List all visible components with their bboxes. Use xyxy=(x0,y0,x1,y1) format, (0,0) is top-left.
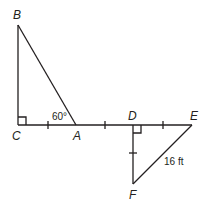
point-label-e: E xyxy=(190,110,198,122)
point-label-a: A xyxy=(73,130,81,142)
right-angle-c-marker xyxy=(18,117,26,125)
segment-fe xyxy=(133,125,192,184)
geometry-diagram xyxy=(0,0,207,206)
point-label-c: C xyxy=(12,130,21,142)
side-ef-length-label: 16 ft xyxy=(164,157,183,167)
point-label-d: D xyxy=(128,110,137,122)
angle-a-label: 60° xyxy=(52,112,67,122)
point-label-f: F xyxy=(129,189,136,201)
segment-ba xyxy=(18,25,76,125)
right-angle-d-marker xyxy=(133,125,141,133)
point-label-b: B xyxy=(13,9,21,21)
